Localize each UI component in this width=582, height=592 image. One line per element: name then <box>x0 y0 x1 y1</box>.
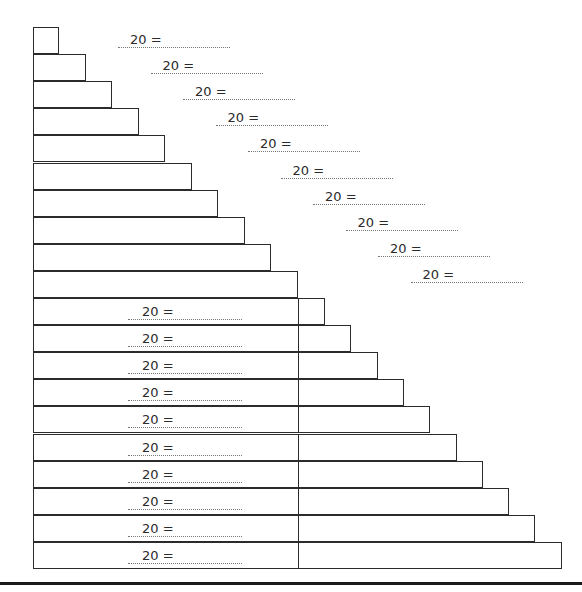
staircase-bar-right <box>298 406 430 433</box>
answer-blank[interactable] <box>128 427 242 428</box>
answer-blank[interactable] <box>313 204 425 205</box>
staircase-bar-right <box>298 298 325 325</box>
answer-blank[interactable] <box>378 256 490 257</box>
answer-blank[interactable] <box>183 99 295 100</box>
equation-label: 20 = <box>142 440 174 455</box>
equation-label: 20 = <box>142 358 174 373</box>
answer-blank[interactable] <box>151 73 263 74</box>
equation-label: 20 = <box>142 385 174 400</box>
answer-blank[interactable] <box>128 536 242 537</box>
staircase-bar-right <box>298 515 535 542</box>
staircase-bar <box>33 190 218 217</box>
equation-label: 20 = <box>293 163 325 178</box>
answer-blank[interactable] <box>216 125 328 126</box>
staircase-bar <box>33 244 271 271</box>
staircase-bar <box>33 108 139 135</box>
answer-blank[interactable] <box>346 230 458 231</box>
equation-label: 20 = <box>142 521 174 536</box>
staircase-bar-right <box>298 542 562 569</box>
answer-blank[interactable] <box>128 455 242 456</box>
staircase-bar <box>33 54 86 81</box>
staircase-bar-right <box>298 325 351 352</box>
staircase-bar-right <box>298 434 457 461</box>
equation-label: 20 = <box>163 58 195 73</box>
equation-label: 20 = <box>260 136 292 151</box>
staircase-bar <box>33 27 59 54</box>
staircase-bar <box>33 217 245 244</box>
answer-blank[interactable] <box>128 346 242 347</box>
answer-blank[interactable] <box>128 373 242 374</box>
equation-label: 20 = <box>142 304 174 319</box>
equation-label: 20 = <box>130 32 162 47</box>
staircase-bar-right <box>298 488 509 515</box>
staircase-bar-right <box>298 379 404 406</box>
answer-blank[interactable] <box>128 482 242 483</box>
equation-label: 20 = <box>142 331 174 346</box>
equation-label: 20 = <box>423 267 455 282</box>
equation-label: 20 = <box>390 241 422 256</box>
equation-label: 20 = <box>228 110 260 125</box>
answer-blank[interactable] <box>118 47 230 48</box>
answer-blank[interactable] <box>128 400 242 401</box>
equation-label: 20 = <box>142 412 174 427</box>
staircase-bar <box>33 135 165 162</box>
answer-blank[interactable] <box>128 563 242 564</box>
equation-label: 20 = <box>142 494 174 509</box>
staircase-bar-right <box>298 461 483 488</box>
answer-blank[interactable] <box>128 509 242 510</box>
staircase-bar-right <box>298 352 378 379</box>
equation-label: 20 = <box>195 84 227 99</box>
equation-label: 20 = <box>142 548 174 563</box>
staircase-bar <box>33 163 192 190</box>
equation-label: 20 = <box>358 215 390 230</box>
staircase-bar <box>33 271 298 298</box>
answer-blank[interactable] <box>411 282 523 283</box>
answer-blank[interactable] <box>248 151 360 152</box>
equation-label: 20 = <box>142 467 174 482</box>
staircase-bar <box>33 81 112 108</box>
answer-blank[interactable] <box>281 178 393 179</box>
page-bottom-rule <box>0 582 582 585</box>
answer-blank[interactable] <box>128 319 242 320</box>
equation-label: 20 = <box>325 189 357 204</box>
